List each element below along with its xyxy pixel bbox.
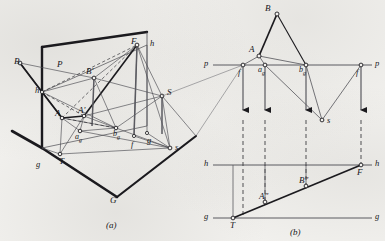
label-b-h-right: h (375, 159, 379, 168)
caption-b: (b) (290, 228, 301, 237)
label-b-A-dprime: A" (259, 192, 268, 201)
label-b-h-left: h (204, 159, 208, 168)
label-a-bg: bg (113, 130, 120, 140)
label-b-g-right: g (375, 212, 379, 221)
label-b-p-right: p (375, 59, 379, 68)
label-b-T: T (230, 221, 235, 230)
label-a-A: A (55, 109, 61, 118)
label-a-F: F (131, 37, 137, 46)
label-b-bg: bg (299, 66, 306, 76)
label-a-S: S (167, 88, 172, 97)
label-b-g-left: g (204, 212, 208, 221)
label-b-ag: ag (258, 66, 265, 76)
front-view-line-tf (233, 165, 361, 218)
construction-lines-a (20, 45, 196, 154)
label-b-B-dprime: B" (299, 176, 308, 185)
panel-b-group (213, 12, 372, 220)
caption-a: (a) (106, 221, 117, 230)
figure-page: B P F h h B' S A A' g f ag bg T g s G (a… (0, 0, 385, 241)
label-b-f-right: f (356, 68, 358, 77)
label-a-G: G (110, 196, 117, 205)
label-b-s: s (327, 116, 330, 125)
label-b-p-left: p (204, 59, 208, 68)
label-a-g-origin: g (36, 160, 40, 169)
label-a-f-plane: f (131, 140, 133, 149)
label-a-B-prime: B' (86, 67, 93, 76)
label-b-B: B (265, 4, 271, 13)
panel-a-group (12, 32, 196, 197)
label-a-B: B (14, 57, 20, 66)
label-a-s: s (175, 143, 178, 152)
label-a-g-plane: g (147, 136, 151, 145)
label-a-T: T (59, 157, 64, 166)
label-a-A-prime: A' (78, 106, 85, 115)
label-a-h-upper: h (150, 39, 154, 48)
label-b-f-left: f (238, 68, 240, 77)
inter-panel-tie-lines (162, 65, 243, 136)
label-b-A: A (249, 45, 255, 54)
label-a-P: P (57, 60, 63, 69)
label-a-h-vertical: h (35, 86, 39, 95)
label-a-ag: ag (75, 133, 82, 143)
label-b-F: F (357, 168, 363, 177)
projector-dashes-b (243, 120, 361, 218)
